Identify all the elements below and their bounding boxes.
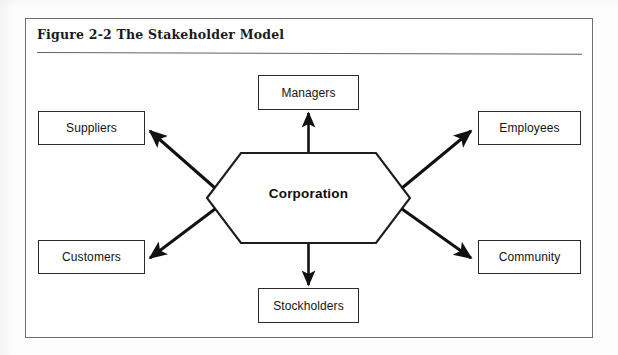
figure-title: Figure 2-2 The Stakeholder Model: [37, 27, 284, 42]
node-stockholders-label: Stockholders: [273, 299, 344, 313]
node-managers: Managers: [258, 75, 359, 110]
node-managers-label: Managers: [281, 86, 335, 100]
node-employees-label: Employees: [499, 121, 559, 135]
node-customers-label: Customers: [62, 250, 121, 264]
node-employees: Employees: [478, 111, 581, 145]
node-suppliers: Suppliers: [38, 111, 145, 145]
figure-page: Figure 2-2 The Stakeholder Model Corpora…: [0, 0, 618, 355]
node-community: Community: [478, 240, 581, 274]
node-suppliers-label: Suppliers: [66, 121, 117, 135]
node-customers: Customers: [38, 240, 145, 274]
node-stockholders: Stockholders: [258, 288, 359, 323]
corporation-label: Corporation: [207, 186, 410, 201]
node-community-label: Community: [499, 250, 561, 264]
